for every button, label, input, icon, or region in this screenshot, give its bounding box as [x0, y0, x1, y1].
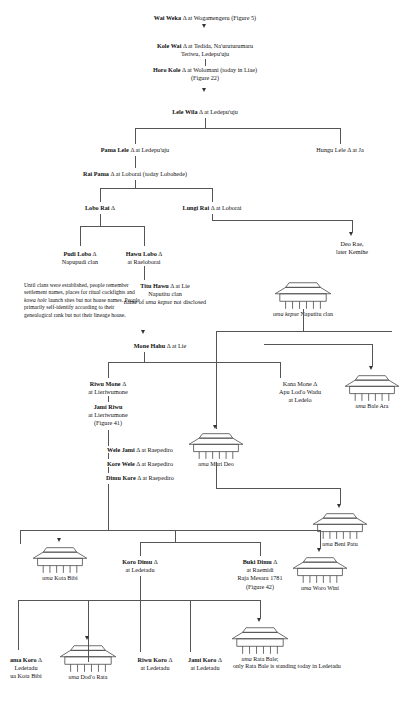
person-place: at Tedida, Na'uruturumaru — [188, 42, 253, 49]
person-node-deo-rae: Deo Rae,later Kemihe — [336, 240, 368, 256]
uma-word: uma — [322, 541, 332, 547]
person-name: Lele Wila — [172, 108, 197, 115]
split-kepue-row — [216, 331, 392, 332]
branch-kepue-left — [216, 331, 217, 345]
person-name: ama Koro — [10, 656, 37, 663]
person-place: at Wolomani (today in Liae) — [187, 66, 257, 73]
split-lele-wila — [135, 128, 340, 129]
branch-riwu-mone — [108, 362, 109, 378]
descent-arrow-uma-rata-bale — [257, 618, 261, 622]
branch-hawu-lobo — [144, 226, 145, 246]
branch-hungu-lele — [340, 128, 341, 144]
explanatory-note: Until clans were established, people rem… — [24, 282, 142, 319]
uma-house-label-uma-kota-bibi: uma Kota Bibi — [42, 575, 77, 583]
descent-arrow-uma-dodo-rata — [85, 636, 89, 640]
uma-house-icon-uma-muri-deo — [188, 432, 244, 460]
uma-house-icon-uma-woro-wini — [292, 556, 348, 584]
split-bale-ara — [264, 344, 372, 345]
male-symbol-icon: Δ — [136, 460, 140, 467]
uma-word: uma kepue — [273, 311, 299, 317]
person-node-pudi-lobo: Pudi Lobo ΔNapupudi clan — [62, 250, 98, 266]
stem-lobo-rai — [100, 214, 101, 226]
link-jami-wele — [108, 430, 109, 446]
male-symbol-icon: Δ — [170, 282, 174, 289]
person-line2: at Raemidi — [237, 566, 282, 574]
person-name: Mone Hahu — [134, 342, 165, 349]
uma-house-label-uma-dodo-rata: uma Dod'o Rata — [69, 674, 108, 682]
male-symbol-icon: Δ — [347, 146, 351, 153]
branch-woro-wini — [320, 530, 321, 548]
person-node-wai-weka: Wai Weka Δ at Wogamengeru (Figure 5) — [154, 14, 256, 22]
person-name: Kore Wele — [107, 460, 135, 467]
person-name: Buki Dimu — [243, 558, 272, 565]
link-kole-horo — [205, 59, 206, 66]
person-name: Kana Mone — [283, 380, 312, 387]
person-node-horo-kole: Horo Kole Δ at Wolomani (today in Liae)(… — [153, 66, 257, 82]
person-name: Wai Weka — [154, 14, 181, 21]
person-node-hawu-lobo: Hawu Lobo Δat Raeloborai — [126, 250, 163, 266]
person-node-rai-pama: Rai Pama Δ at Loborai (today Lobohede) — [83, 170, 187, 178]
person-name: Jami Koro — [188, 656, 216, 663]
split-lobo-rai — [80, 226, 144, 227]
uma-name: Muri Deo — [209, 461, 234, 467]
person-line2: Napupudi clan — [62, 258, 98, 266]
branch-buki-dimu — [260, 542, 261, 556]
male-symbol-icon: Δ — [218, 656, 222, 663]
split-lungi-rai — [212, 220, 352, 221]
link-kore-dimu — [108, 467, 109, 473]
stem-dimu-kore — [108, 484, 109, 530]
uma-word: uma — [355, 403, 365, 409]
uma-word: uma — [241, 656, 251, 662]
descent-arrow-horo-kole — [202, 88, 206, 92]
split-rai-pama — [100, 188, 212, 189]
male-symbol-icon: Δ — [38, 656, 42, 663]
uma-word: uma — [198, 461, 208, 467]
person-line3: ua Kota Bibi — [10, 672, 42, 680]
link-muri-deo-down — [216, 462, 217, 488]
uma-name: Dod'o Rata — [79, 674, 107, 680]
genealogy-chart: Wai Weka Δ at Wogamengeru (Figure 5)Kole… — [0, 0, 404, 710]
person-node-jami-riwu: Jami Riwuat Lieriwumone(Figure 41) — [88, 403, 127, 428]
descent-arrow-uma-woro-wini — [317, 548, 321, 552]
male-symbol-icon: Δ — [130, 146, 134, 153]
person-line3: Raja Mesara 1781 — [237, 574, 282, 582]
person-place: at Raepediro — [142, 474, 173, 481]
person-node-pama-lele: Pama Lele Δ at Ledepu'uju — [101, 146, 169, 154]
link-riwu-jami — [108, 396, 109, 402]
branch-deo-rae — [352, 220, 353, 232]
descent-arrow-wai-weka — [202, 24, 206, 28]
person-node-dimu-kore: Dimu Kore Δ at Raepediro — [106, 474, 174, 482]
person-line2: Teriwu, Ledepu'uju — [157, 50, 253, 58]
person-node-buki-dimu: Buki Dimu Δat RaemidiRaja Mesara 1781(Fi… — [237, 558, 282, 591]
person-line2: (Figure 22) — [153, 74, 257, 82]
person-node-lele-wila: Lele Wila Δ at Ledepu'uju — [172, 108, 238, 116]
person-name: Jami Riwu — [94, 403, 123, 410]
branch-rata-bale — [260, 600, 261, 618]
person-node-kana-mone: Kana Mone ΔApu Lod'o Waduat Ledelo — [279, 380, 321, 405]
person-node-lobo-rai: Lobo Rai Δ — [85, 204, 115, 212]
male-symbol-icon: Δ — [211, 204, 215, 211]
branch-pama-lele — [135, 128, 136, 144]
person-line3: at Ledelo — [279, 396, 321, 404]
uma-name: Naputitu clan — [299, 311, 333, 317]
branch-lobo-rai — [100, 188, 101, 202]
stem-lele-wila — [205, 118, 206, 128]
uma-house-icon-uma-dodo-rata — [59, 644, 117, 673]
branch-jami-koro — [190, 600, 191, 652]
uma-word: uma — [69, 674, 79, 680]
uma-name: Bale Ara — [366, 403, 389, 409]
male-symbol-icon: Δ — [199, 108, 203, 115]
branch-ama-koro — [18, 600, 19, 650]
uma-house-label-uma-beni-patu: uma Beni Patu — [322, 541, 357, 549]
person-place: at Loborai (today Lobohede) — [116, 170, 187, 177]
split-mone-hahu — [108, 362, 280, 363]
person-place: at Raepediro — [142, 460, 173, 467]
link-pama-rai — [135, 156, 136, 168]
person-name: Koro Dimu — [122, 558, 152, 565]
male-symbol-icon: Δ — [158, 250, 162, 257]
link-wele-kore — [108, 453, 109, 459]
person-name: Kole Wai — [157, 42, 181, 49]
split-dimu-kore-row — [20, 530, 320, 531]
link-kepue-muri-deo — [216, 345, 217, 429]
person-name: Dimu Kore — [106, 474, 136, 481]
